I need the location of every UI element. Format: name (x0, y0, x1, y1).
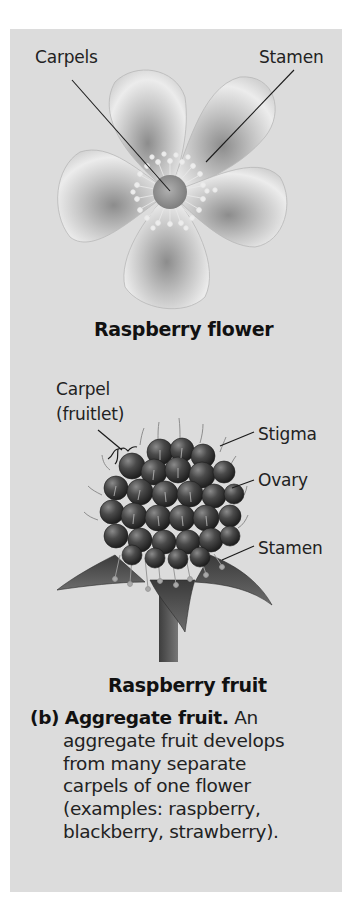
caption-raspberry-flower: Raspberry flower (94, 320, 273, 339)
panel-tag: (b) (30, 707, 59, 728)
label-carpel: Carpel (56, 381, 110, 398)
description-line-0: An (229, 707, 258, 728)
label-fruit-stamen: Stamen (258, 540, 322, 557)
flower-carpel-center (153, 175, 187, 209)
description-line-5: blackberry, strawberry). (30, 821, 330, 844)
description-line-1: aggregate fruit develops (30, 730, 330, 753)
description-line-3: carpels of one flower (30, 775, 330, 798)
label-fruitlet: (fruitlet) (56, 406, 124, 423)
description-line-2: from many separate (30, 753, 330, 776)
description-line-4: (examples: raspberry, (30, 798, 330, 821)
fruit-drupelets (100, 438, 244, 569)
label-carpels: Carpels (35, 49, 98, 66)
label-stigma: Stigma (258, 426, 317, 443)
figure-description: (b) Aggregate fruit. An aggregate fruit … (30, 707, 330, 844)
label-ovary: Ovary (258, 472, 308, 489)
label-flower-stamen: Stamen (259, 49, 323, 66)
description-heading-line: (b) Aggregate fruit. An (30, 707, 330, 730)
description-term: Aggregate fruit. (65, 707, 229, 728)
raspberry-flower-drawing (58, 70, 294, 309)
raspberry-fruit-drawing (57, 418, 272, 662)
caption-raspberry-fruit: Raspberry fruit (108, 676, 267, 695)
